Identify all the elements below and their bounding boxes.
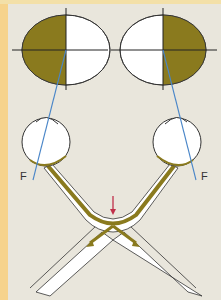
- optic-tracts: [30, 226, 202, 296]
- chiasm-arrow-icon: [110, 196, 116, 215]
- visual-field-left: [12, 8, 110, 90]
- visual-field-right: [111, 8, 217, 90]
- diagram-canvas: [0, 0, 221, 300]
- fovea-label-right: F: [201, 170, 208, 182]
- eye-right: [153, 117, 201, 166]
- optic-nerves: [44, 164, 178, 247]
- fovea-label-left: F: [20, 170, 27, 182]
- diagram-frame: F F: [0, 0, 221, 300]
- eye-left: [22, 117, 70, 166]
